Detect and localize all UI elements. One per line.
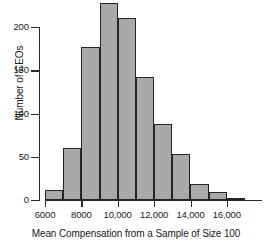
- x-axis-tick: [118, 201, 119, 207]
- y-axis-tick: [31, 27, 39, 28]
- histogram-bar: [227, 198, 245, 200]
- x-axis-tick-label: 6000: [35, 210, 56, 220]
- x-axis-tick: [191, 201, 192, 207]
- histogram-bar: [118, 18, 136, 201]
- y-axis-tick-label: 50: [3, 152, 29, 162]
- histogram-bar: [45, 190, 63, 200]
- histogram-bar: [190, 184, 208, 200]
- y-axis-tick: [31, 114, 39, 115]
- x-axis-tick-label: 12,000: [140, 210, 168, 220]
- y-axis-spine: [39, 27, 40, 201]
- histogram-bar: [172, 154, 190, 200]
- y-axis-tick: [31, 157, 39, 158]
- x-axis-tick: [227, 201, 228, 207]
- plot-area: [45, 0, 245, 200]
- y-axis-tick: [31, 200, 39, 201]
- histogram-bar: [63, 148, 81, 200]
- x-axis-tick: [154, 201, 155, 207]
- y-axis-tick-label: 0: [3, 195, 29, 205]
- histogram-figure: 0 50 100 150 200 6000 8000 10,000 12,000…: [0, 0, 272, 251]
- x-axis-title: Mean Compensation from a Sample of Size …: [0, 228, 272, 239]
- x-axis-tick-label: 8000: [71, 210, 92, 220]
- histogram-bar: [100, 3, 118, 200]
- histogram-bar: [136, 77, 154, 200]
- y-axis-title: Number of CEOs: [15, 18, 25, 148]
- x-axis-tick-label: 16,000: [213, 210, 241, 220]
- y-axis-tick: [31, 70, 39, 71]
- x-axis-tick-label: 14,000: [176, 210, 204, 220]
- x-axis-tick-label: 10,000: [104, 210, 132, 220]
- histogram-bar: [209, 192, 227, 200]
- x-axis-tick: [45, 201, 46, 207]
- histogram-bar: [81, 47, 99, 200]
- histogram-bar: [154, 124, 172, 200]
- x-axis-tick: [81, 201, 82, 207]
